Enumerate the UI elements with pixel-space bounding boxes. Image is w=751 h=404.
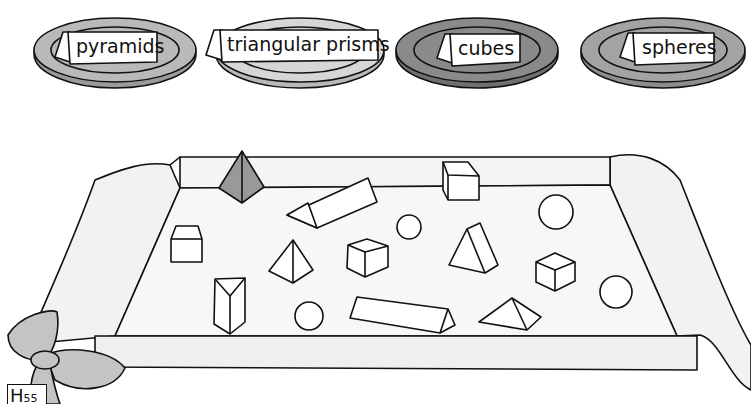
worksheet-drawing (0, 0, 751, 404)
page-letter: H (10, 385, 24, 404)
page-number-tag: H55 (7, 384, 47, 404)
worksheet: pyramids triangular prisms cubes spheres… (0, 0, 751, 404)
shape-cube[interactable] (171, 226, 202, 262)
tray (95, 157, 697, 370)
shape-sphere[interactable] (295, 302, 323, 330)
shape-sphere[interactable] (600, 276, 632, 308)
page-number: 55 (24, 392, 38, 404)
shape-triangular-prism[interactable] (214, 278, 245, 334)
shape-sphere[interactable] (397, 215, 421, 239)
shape-sphere[interactable] (539, 195, 573, 229)
plate-label-cubes: cubes (458, 37, 514, 59)
plate-label-triangular-prisms: triangular prisms (227, 33, 390, 55)
plate-label-spheres: spheres (642, 36, 717, 58)
plate-label-pyramids: pyramids (76, 35, 165, 57)
